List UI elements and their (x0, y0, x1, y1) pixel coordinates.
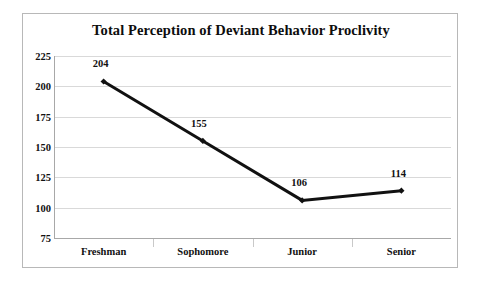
data-point-label: 106 (291, 177, 307, 188)
series-polyline (104, 81, 402, 200)
data-point-label: 114 (391, 167, 406, 178)
series-markers (101, 78, 405, 203)
chart-frame: Total Perception of Deviant Behavior Pro… (22, 13, 458, 268)
data-point-label: 204 (93, 58, 109, 69)
series-line-chart (23, 14, 459, 269)
data-point-label: 155 (191, 117, 207, 128)
data-point-marker (398, 188, 404, 194)
